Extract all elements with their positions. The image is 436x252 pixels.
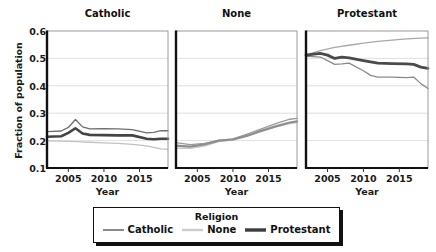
x-tick-label: 2005 xyxy=(314,173,340,184)
y-tick-label: 0.6 xyxy=(29,26,46,37)
y-tick-label: 0.5 xyxy=(29,53,46,64)
x-tick-label: 2005 xyxy=(184,173,210,184)
x-axis-label: Year xyxy=(355,186,379,197)
panel-frame xyxy=(47,31,168,168)
legend: Religion CatholicNoneProtestant xyxy=(93,207,340,243)
legend-line-swatch xyxy=(182,225,203,235)
x-tick-label: 2010 xyxy=(220,173,246,184)
series-line-none xyxy=(47,141,168,150)
panel-title-catholic: Catholic xyxy=(47,8,168,19)
y-tick-label: 0.2 xyxy=(29,135,46,146)
panel-title-none: None xyxy=(176,8,297,19)
y-axis-tick-labels: 0.60.50.40.30.20.1 xyxy=(16,0,46,252)
series-line-protestant xyxy=(176,121,297,146)
x-tick-label: 2015 xyxy=(386,173,412,184)
legend-label: Catholic xyxy=(128,225,174,235)
x-tick-label: 2010 xyxy=(91,173,117,184)
legend-label: None xyxy=(207,225,236,235)
x-tick-label: 2005 xyxy=(55,173,81,184)
y-tick-label: 0.3 xyxy=(29,108,46,119)
series-line-protestant xyxy=(47,128,168,139)
series-line-catholic xyxy=(47,120,168,133)
legend-item-none[interactable]: None xyxy=(182,225,236,235)
legend-line-swatch xyxy=(245,225,266,235)
panel-title-protestant: Protestant xyxy=(306,8,428,19)
legend-label: Protestant xyxy=(270,225,330,235)
legend-item-protestant[interactable]: Protestant xyxy=(245,225,330,235)
x-tick-label: 2015 xyxy=(255,173,281,184)
series-line-protestant xyxy=(306,53,428,68)
y-tick-label: 0.4 xyxy=(29,80,46,91)
religion-fraction-multi-panel-chart: Fraction of population 0.60.50.40.30.20.… xyxy=(0,0,436,252)
x-tick-label: 2010 xyxy=(350,173,376,184)
legend-item-catholic[interactable]: Catholic xyxy=(103,225,174,235)
legend-line-swatch xyxy=(103,225,124,235)
panel-frame xyxy=(306,31,428,168)
x-axis-label: Year xyxy=(96,186,120,197)
x-tick-label: 2015 xyxy=(126,173,152,184)
x-axis-label: Year xyxy=(225,186,249,197)
legend-title: Religion xyxy=(94,211,339,222)
legend-items: CatholicNoneProtestant xyxy=(94,225,339,235)
series-line-catholic xyxy=(306,38,428,55)
y-tick-label: 0.1 xyxy=(29,163,46,174)
